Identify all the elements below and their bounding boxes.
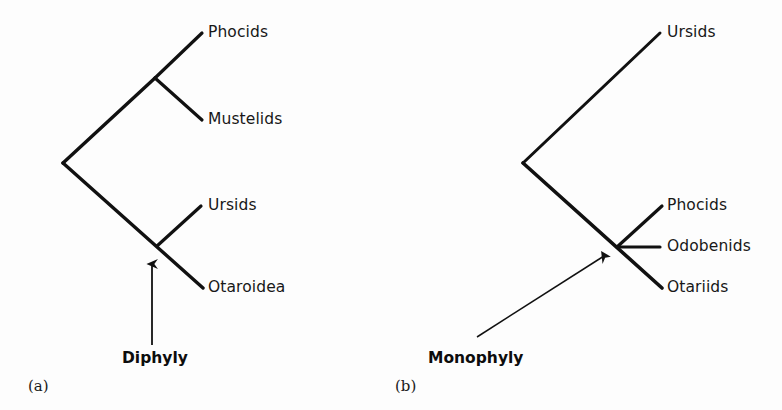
tip-label-phocids-b: Phocids <box>667 198 727 214</box>
panel-caption-b: (b) <box>395 379 416 394</box>
tip-label-otariids-b: Otariids <box>667 280 728 296</box>
tip-label-ursids-b: Ursids <box>667 25 716 41</box>
branch-a-root-to-upper <box>63 78 155 163</box>
tip-label-otaroidea-a: Otaroidea <box>208 280 285 296</box>
tip-label-ursids-a: Ursids <box>208 198 257 214</box>
branch-a-ursids <box>157 206 201 246</box>
tip-label-mustelids-a: Mustelids <box>208 112 282 128</box>
panel-b-tree <box>477 33 662 337</box>
monophyly-arrow <box>477 256 604 337</box>
branch-a-mustelids <box>155 78 202 120</box>
annotation-monophyly: Monophyly <box>428 351 523 367</box>
panel-a-tree <box>63 33 203 345</box>
cladogram-canvas <box>0 0 782 410</box>
branch-b-phocids <box>617 206 662 247</box>
branch-a-phocids <box>155 33 202 78</box>
branch-a-root-to-otaroidea <box>63 163 203 288</box>
branch-b-ursids <box>523 33 660 163</box>
panel-caption-a: (a) <box>28 379 49 394</box>
tip-label-phocids-a: Phocids <box>208 25 268 41</box>
phylogeny-figure: Phocids Mustelids Ursids Otaroidea Diphy… <box>0 0 782 410</box>
annotation-diphyly: Diphyly <box>122 351 188 367</box>
tip-label-odobenids-b: Odobenids <box>667 239 751 255</box>
